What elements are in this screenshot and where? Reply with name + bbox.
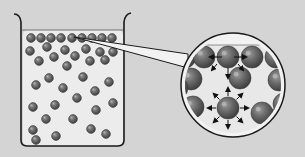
molecule-highlight bbox=[102, 57, 104, 59]
molecule-highlight bbox=[28, 35, 30, 37]
molecule-highlight bbox=[93, 107, 95, 109]
molecule-highlight bbox=[44, 44, 46, 46]
interior-molecule bbox=[91, 87, 100, 96]
molecule-highlight bbox=[27, 48, 29, 50]
interior-molecule bbox=[35, 57, 44, 66]
magnified-interior-molecule bbox=[229, 67, 251, 89]
interior-molecule bbox=[43, 43, 52, 52]
interior-molecule bbox=[92, 106, 101, 115]
surface-molecule bbox=[27, 34, 36, 43]
molecule-highlight bbox=[46, 75, 48, 77]
molecule-highlight bbox=[30, 104, 32, 106]
interior-molecule bbox=[50, 53, 59, 62]
molecule-highlight bbox=[30, 127, 32, 129]
surface-molecule bbox=[68, 34, 77, 43]
surface-molecule bbox=[108, 34, 117, 43]
molecule-highlight bbox=[106, 79, 108, 81]
magnified-air bbox=[180, 30, 290, 45]
molecule-highlight bbox=[60, 85, 62, 87]
molecule-highlight bbox=[87, 58, 89, 60]
molecule-highlight bbox=[110, 49, 112, 51]
molecule-highlight bbox=[99, 35, 101, 37]
interior-molecule bbox=[86, 57, 95, 66]
interior-molecule bbox=[29, 103, 38, 112]
molecule-highlight bbox=[88, 126, 90, 128]
interior-molecule bbox=[102, 130, 111, 139]
interior-molecule bbox=[32, 136, 41, 145]
interior-molecule bbox=[69, 115, 78, 124]
molecule-highlight bbox=[33, 82, 35, 84]
surface-molecule bbox=[37, 34, 46, 43]
interior-molecule bbox=[73, 94, 82, 103]
molecule-highlight bbox=[53, 133, 55, 135]
molecule-highlight bbox=[83, 46, 85, 48]
molecule-highlight bbox=[79, 35, 81, 37]
interior-molecule bbox=[51, 101, 60, 110]
interior-molecule bbox=[63, 62, 72, 71]
molecule-highlight bbox=[48, 35, 50, 37]
interior-molecule bbox=[87, 125, 96, 134]
molecule-highlight bbox=[36, 58, 38, 60]
interior-molecule bbox=[29, 126, 38, 135]
interior-molecule bbox=[32, 81, 41, 90]
molecule-highlight bbox=[109, 35, 111, 37]
magnified-interior-molecule bbox=[217, 97, 239, 119]
molecule-highlight bbox=[97, 49, 99, 51]
molecule-highlight bbox=[33, 137, 35, 139]
molecule-highlight bbox=[58, 35, 60, 37]
molecule-highlight bbox=[273, 74, 278, 79]
molecule-highlight bbox=[43, 116, 45, 118]
molecule-highlight bbox=[51, 54, 53, 56]
interior-molecule bbox=[71, 52, 80, 61]
molecule-highlight bbox=[72, 53, 74, 55]
interior-molecule bbox=[59, 84, 68, 93]
molecule-highlight bbox=[256, 107, 261, 112]
interior-molecule bbox=[45, 74, 54, 83]
interior-molecule bbox=[96, 48, 105, 57]
interior-molecule bbox=[109, 99, 118, 108]
molecule-highlight bbox=[222, 102, 227, 107]
interior-molecule bbox=[101, 56, 110, 65]
molecule-highlight bbox=[69, 35, 71, 37]
molecule-highlight bbox=[38, 35, 40, 37]
molecule-highlight bbox=[70, 116, 72, 118]
interior-molecule bbox=[79, 73, 88, 82]
interior-molecule bbox=[42, 115, 51, 124]
molecule-highlight bbox=[64, 63, 66, 65]
surface-molecule bbox=[57, 34, 66, 43]
molecule-highlight bbox=[246, 51, 251, 56]
interior-molecule bbox=[61, 46, 70, 55]
molecule-highlight bbox=[89, 35, 91, 37]
interior-molecule bbox=[52, 132, 61, 141]
molecule-highlight bbox=[52, 102, 54, 104]
surface-tension-diagram bbox=[0, 0, 305, 157]
diagram-canvas bbox=[0, 0, 305, 157]
molecule-highlight bbox=[171, 82, 176, 87]
surface-molecule bbox=[47, 34, 56, 43]
molecule-highlight bbox=[74, 95, 76, 97]
molecule-highlight bbox=[103, 131, 105, 133]
interior-molecule bbox=[105, 78, 114, 87]
interior-molecule bbox=[82, 45, 91, 54]
magnified-interior-molecule bbox=[268, 69, 290, 91]
molecule-highlight bbox=[92, 88, 94, 90]
molecule-highlight bbox=[62, 47, 64, 49]
molecule-highlight bbox=[110, 100, 112, 102]
molecule-highlight bbox=[234, 72, 239, 77]
molecule-highlight bbox=[222, 51, 227, 56]
molecule-highlight bbox=[80, 74, 82, 76]
interior-molecule bbox=[26, 47, 35, 56]
